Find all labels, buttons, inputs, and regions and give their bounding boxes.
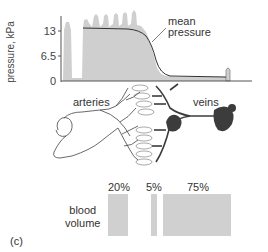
percent-arteries: 20% [108,182,130,193]
panel-label: (c) [10,236,23,247]
volume-bar-arteries [108,194,128,236]
blood-volume-label: blood volume [65,204,100,230]
mean-pressure-annotation: mean pressure [168,16,211,38]
veins-label: veins [193,97,219,108]
liver-shape [166,115,182,132]
right-heart-pulse [226,68,230,81]
percent-veins: 75% [187,182,209,193]
annotation-line-2: pressure [168,27,211,38]
annotation-leader [152,28,166,42]
arteries-label: arteries [73,97,110,108]
blood-volume-label-line-2: volume [65,217,100,230]
volume-bar-veins [163,194,231,236]
volume-bar-capillaries [151,194,157,236]
percent-capillaries: 5% [146,182,162,193]
capillary-beds [132,85,154,165]
atrium-shape [228,104,236,112]
blood-volume-label-line-1: blood [65,204,100,217]
